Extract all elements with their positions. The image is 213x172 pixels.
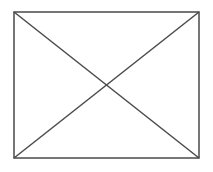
broken-image-placeholder-icon xyxy=(0,0,213,172)
placeholder-canvas xyxy=(0,0,213,172)
